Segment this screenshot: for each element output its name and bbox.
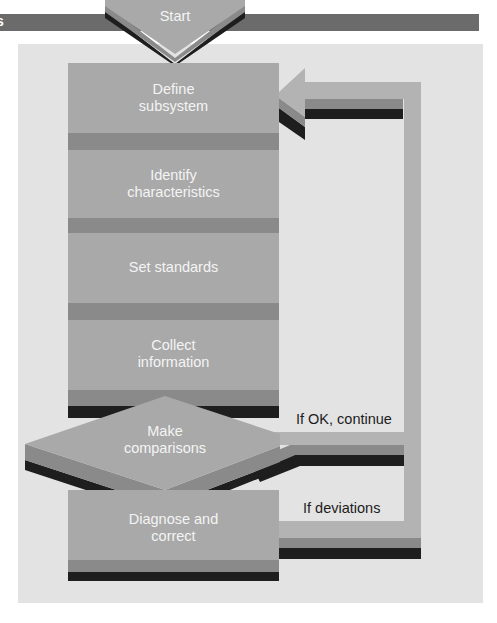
step-define-line1: Define <box>68 81 279 98</box>
correction-line1: Diagnose and <box>68 511 279 528</box>
loop-vertical <box>404 82 421 547</box>
step-identify-line1: Identify <box>68 167 279 184</box>
correction-label: Diagnose and correct <box>68 511 279 545</box>
step-identify-line2: characteristics <box>68 184 279 201</box>
edge-label-ok: If OK, continue <box>296 411 392 428</box>
band-define <box>68 133 279 150</box>
shadow-diagnose <box>68 572 279 581</box>
band-diagnose <box>68 560 279 572</box>
decision-line1: Make <box>85 423 245 440</box>
start-label: Start <box>140 8 210 25</box>
band-standards <box>68 303 279 320</box>
loop-top <box>305 82 421 99</box>
step-collect-line2: information <box>68 354 279 371</box>
ok-connector <box>270 432 421 445</box>
loop-top-shadow <box>305 109 403 119</box>
edge-label-deviations: If deviations <box>303 500 380 517</box>
step-standards-label: Set standards <box>68 259 279 276</box>
deviation-connector <box>279 521 421 538</box>
deviation-connector-band <box>279 538 421 548</box>
step-collect-line1: Collect <box>68 337 279 354</box>
step-identify-label: Identify characteristics <box>68 167 279 201</box>
loop-top-band <box>305 99 403 109</box>
correction-line2: correct <box>68 528 279 545</box>
step-standards-line1: Set standards <box>68 259 279 276</box>
step-define-line2: subsystem <box>68 98 279 115</box>
step-define-label: Define subsystem <box>68 81 279 115</box>
decision-label: Make comparisons <box>85 423 245 457</box>
band-identify <box>68 218 279 233</box>
deviation-connector-shadow <box>279 548 421 559</box>
step-collect-label: Collect information <box>68 337 279 371</box>
decision-line2: comparisons <box>85 440 245 457</box>
